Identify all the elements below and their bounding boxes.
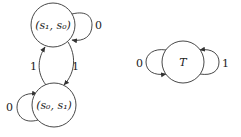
state-diagram: 0 1 1 0 0 1 (s₁, s₀) (s₀, s₁) T [0, 0, 241, 137]
edge-label-s0s1-self: 0 [6, 101, 13, 114]
edge-label-s1s0-self: 0 [95, 19, 102, 32]
edge-label-T-self-0: 0 [136, 57, 143, 70]
edge-s0s1-to-s1s0 [39, 47, 46, 85]
edge-label-s0s1-to-s1s0: 1 [30, 60, 37, 73]
node-s1s0: (s₁, s₀) [31, 3, 75, 47]
node-T: T [162, 41, 204, 83]
node-s0s1: (s₀, s₁) [32, 83, 76, 127]
edge-label-T-self-1: 1 [222, 57, 229, 70]
edge-label-s1s0-to-s0s1: 1 [72, 60, 79, 73]
node-label-s0s1: (s₀, s₁) [36, 99, 72, 112]
node-label-s1s0: (s₁, s₀) [35, 19, 71, 32]
